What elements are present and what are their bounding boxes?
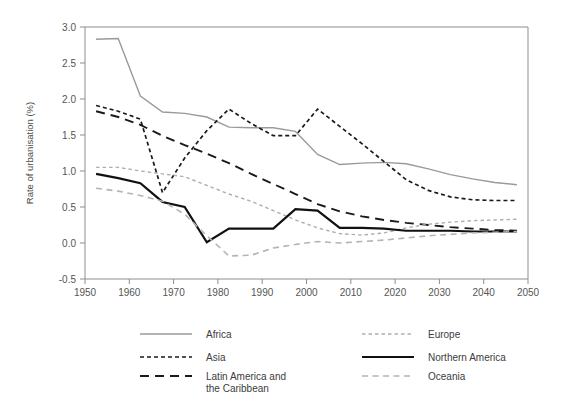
legend-label-line2[interactable]: the Caribbean: [206, 383, 269, 394]
x-tick-label: 2050: [517, 287, 540, 298]
legend-label[interactable]: Latin America and: [206, 371, 286, 382]
urbanisation-rate-line-chart: -0.50.00.51.01.52.02.53.0 19501960197019…: [0, 0, 584, 402]
legend-label[interactable]: Northern America: [428, 352, 506, 363]
x-tick-label: 1980: [207, 287, 230, 298]
x-tick-label: 1990: [251, 287, 274, 298]
y-tick-label: 3.0: [62, 22, 76, 33]
y-axis-title: Rate of urbanisation (%): [24, 102, 35, 204]
y-tick-label: 2.5: [62, 58, 76, 69]
x-tick-label: 2030: [428, 287, 451, 298]
y-tick-label: 0.0: [62, 238, 76, 249]
x-tick-label: 2040: [473, 287, 496, 298]
legend-label[interactable]: Africa: [206, 329, 232, 340]
x-tick-label: 1970: [162, 287, 185, 298]
x-tick-label: 1950: [74, 287, 97, 298]
chart-background: [0, 0, 584, 402]
x-tick-label: 1960: [118, 287, 141, 298]
x-tick-label: 2010: [340, 287, 363, 298]
y-tick-label: 1.5: [62, 130, 76, 141]
legend-label[interactable]: Asia: [206, 352, 226, 363]
y-tick-label: -0.5: [59, 274, 77, 285]
y-tick-label: 0.5: [62, 202, 76, 213]
y-tick-label: 1.0: [62, 166, 76, 177]
legend-label[interactable]: Oceania: [428, 371, 466, 382]
legend-label[interactable]: Europe: [428, 329, 461, 340]
y-tick-label: 2.0: [62, 94, 76, 105]
x-tick-label: 2020: [384, 287, 407, 298]
x-tick-label: 2000: [295, 287, 318, 298]
